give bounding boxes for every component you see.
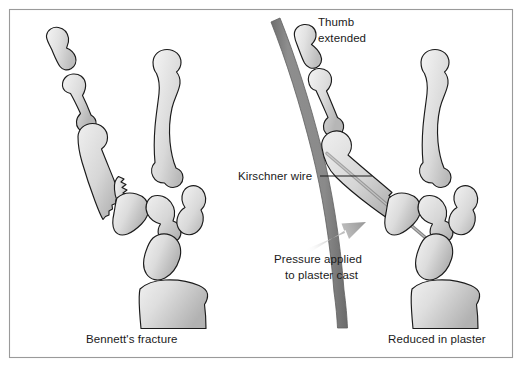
kirschner-wire-label: Kirschner wire: [238, 170, 312, 182]
pressure-label-line2: to plaster cast: [285, 269, 359, 281]
left-panel-caption: Bennett's fracture: [86, 333, 178, 345]
index-metacarpal-left: [152, 50, 183, 188]
radius-left: [139, 280, 207, 329]
trapezium-left: [113, 193, 149, 235]
thumb-extended-line2: extended: [318, 32, 366, 44]
lunate-right: [416, 234, 453, 280]
lunate-left: [144, 234, 181, 280]
annotation-thumb-extended: Thumb extended: [318, 16, 366, 44]
radius-right: [411, 280, 479, 329]
annotation-pressure-applied: Pressure applied to plaster cast: [274, 253, 362, 281]
pressure-label-line1: Pressure applied: [274, 253, 362, 265]
index-metacarpal-right: [420, 50, 451, 188]
thumb-distal-phalanx-left: [46, 27, 76, 70]
left-panel-bennetts-fracture: Bennett's fracture: [46, 27, 207, 345]
thumb-extended-line1: Thumb: [318, 16, 354, 28]
medical-illustration-figure: Bennett's fracture Reduced in plaster: [0, 0, 524, 369]
capitate-left: [177, 186, 206, 235]
capitate-right: [449, 186, 478, 235]
right-panel-caption: Reduced in plaster: [388, 333, 486, 345]
thumb-metacarpal-left: [78, 124, 120, 220]
